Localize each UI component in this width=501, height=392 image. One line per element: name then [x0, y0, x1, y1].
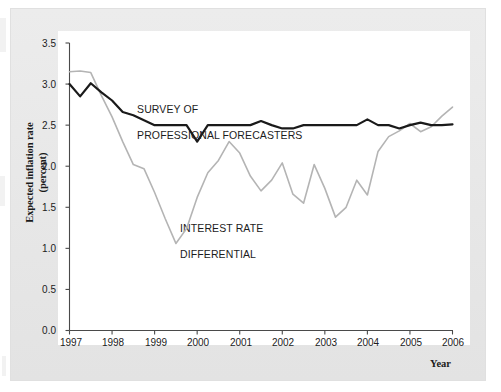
axes-lines — [70, 43, 454, 331]
y-tick-marks — [66, 43, 70, 331]
line-interest-rate-differential — [70, 71, 453, 244]
chart-canvas — [0, 0, 501, 392]
x-tick-marks — [70, 331, 453, 335]
figure-root: Expected inflation rate (percent) Year 0… — [0, 0, 501, 392]
